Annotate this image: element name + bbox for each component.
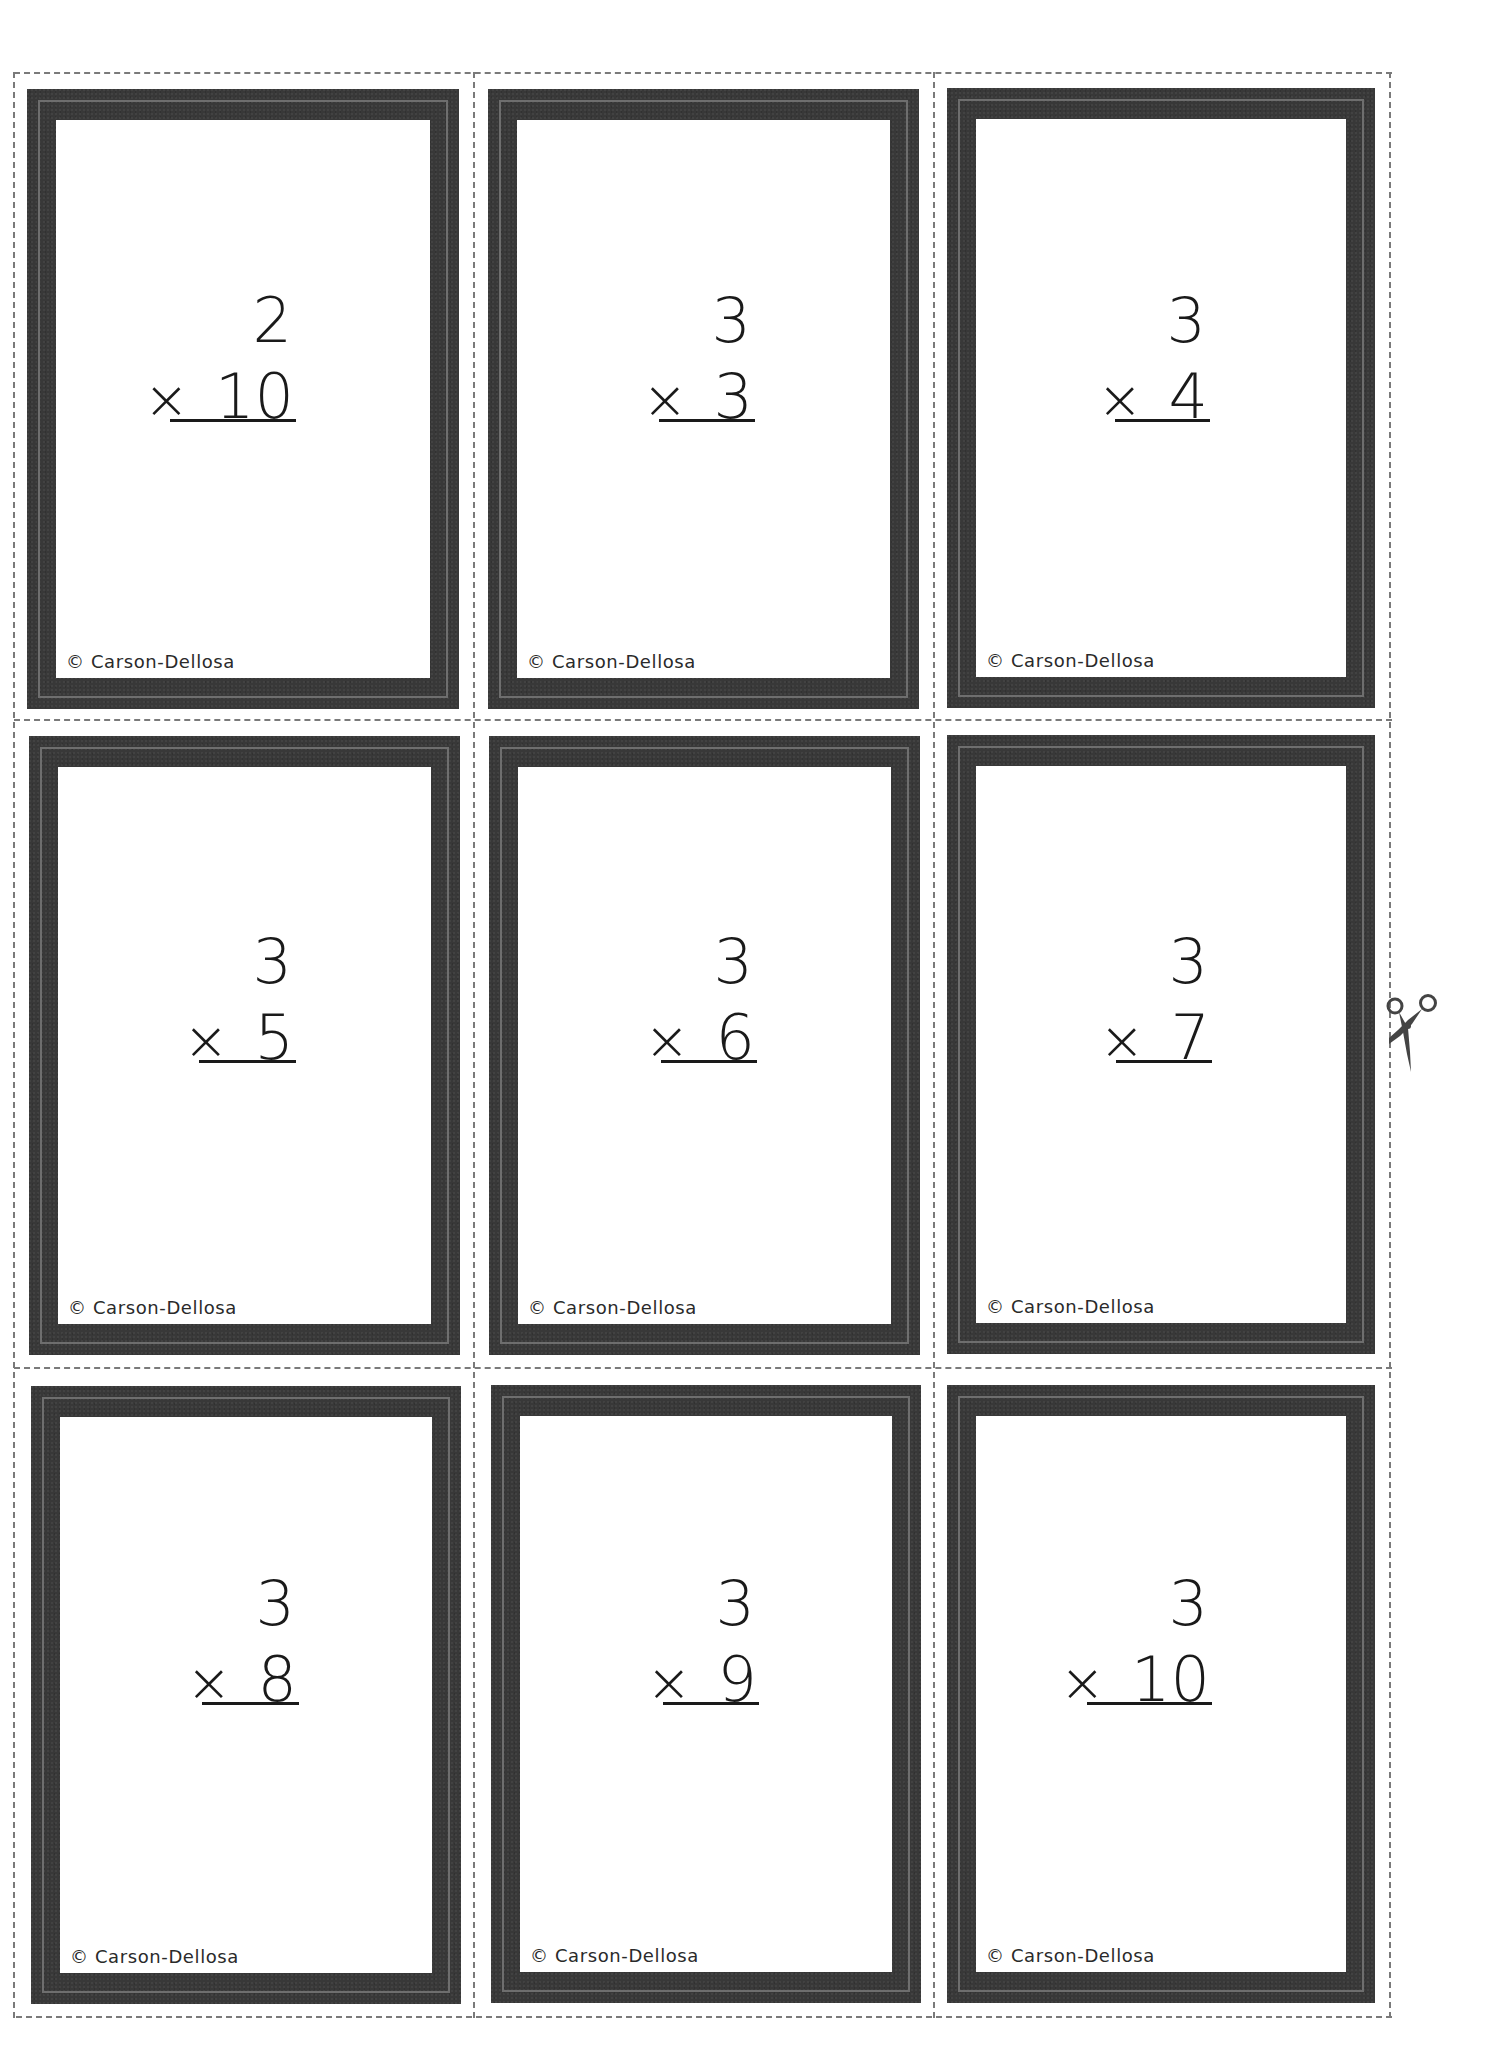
flash-card-sheet: 2 × 10 © Carson-Dellosa 3 × 3 © Carson-D… <box>0 0 1492 2072</box>
multiplicand: 3 <box>253 931 294 993</box>
flash-card: 3 × 6 © Carson-Dellosa <box>489 736 920 1355</box>
cut-line-col-2 <box>933 72 935 2018</box>
flash-card: 3 × 9 © Carson-Dellosa <box>491 1385 921 2003</box>
copyright-label: © Carson-Dellosa <box>986 650 1155 671</box>
multiplication-problem: 3 × 7 <box>976 931 1210 1071</box>
flash-card: 3 × 4 © Carson-Dellosa <box>947 88 1375 708</box>
card-face: 3 × 6 © Carson-Dellosa <box>518 767 891 1324</box>
flash-card: 3 × 10 © Carson-Dellosa <box>947 1385 1375 2003</box>
multiplicand: 3 <box>716 1573 757 1635</box>
card-face: 3 × 8 © Carson-Dellosa <box>60 1417 432 1973</box>
copyright-label: © Carson-Dellosa <box>530 1945 699 1966</box>
flash-card: 2 × 10 © Carson-Dellosa <box>27 89 459 709</box>
multiplicand: 3 <box>256 1573 297 1635</box>
answer-line <box>663 1702 759 1705</box>
answer-line <box>199 1060 296 1063</box>
multiplicand: 3 <box>1167 290 1208 352</box>
cut-line-left <box>13 72 15 2018</box>
cut-line-top <box>14 72 1392 74</box>
multiplication-problem: 3 × 4 <box>976 290 1208 430</box>
card-face: 2 × 10 © Carson-Dellosa <box>56 120 430 678</box>
flash-card: 3 × 8 © Carson-Dellosa <box>31 1386 461 2004</box>
card-face: 3 × 10 © Carson-Dellosa <box>976 1416 1346 1972</box>
copyright-label: © Carson-Dellosa <box>986 1296 1155 1317</box>
multiplicand: 3 <box>714 931 755 993</box>
card-face: 3 × 4 © Carson-Dellosa <box>976 119 1346 677</box>
multiplication-problem: 3 × 5 <box>58 931 294 1071</box>
copyright-label: © Carson-Dellosa <box>68 1297 237 1318</box>
answer-line <box>170 419 296 422</box>
multiplication-problem: 3 × 10 <box>976 1573 1210 1713</box>
scissors-icon <box>1380 992 1444 1078</box>
answer-line <box>661 1060 757 1063</box>
multiplication-problem: 3 × 8 <box>60 1573 297 1713</box>
multiplicand: 3 <box>1169 931 1210 993</box>
copyright-label: © Carson-Dellosa <box>70 1946 239 1967</box>
cut-line-bottom <box>16 2016 1392 2018</box>
card-face: 3 × 7 © Carson-Dellosa <box>976 766 1346 1323</box>
flash-card: 3 × 5 © Carson-Dellosa <box>29 736 460 1355</box>
multiplication-problem: 2 × 10 <box>56 290 294 430</box>
answer-line <box>1115 419 1210 422</box>
copyright-label: © Carson-Dellosa <box>528 1297 697 1318</box>
multiplicand: 3 <box>712 290 753 352</box>
copyright-label: © Carson-Dellosa <box>527 651 696 672</box>
cut-line-row-2 <box>14 1367 1392 1369</box>
cut-line-row-1 <box>14 719 1392 721</box>
flash-card: 3 × 7 © Carson-Dellosa <box>947 735 1375 1354</box>
answer-line <box>1116 1060 1212 1063</box>
multiplicand: 3 <box>1169 1573 1210 1635</box>
multiplication-problem: 3 × 9 <box>520 1573 757 1713</box>
card-face: 3 × 3 © Carson-Dellosa <box>517 120 890 678</box>
copyright-label: © Carson-Dellosa <box>986 1945 1155 1966</box>
card-face: 3 × 5 © Carson-Dellosa <box>58 767 431 1324</box>
answer-line <box>1087 1702 1212 1705</box>
multiplicand: 2 <box>253 290 294 352</box>
answer-line <box>659 419 755 422</box>
copyright-label: © Carson-Dellosa <box>66 651 235 672</box>
cut-line-col-1 <box>473 72 475 2018</box>
answer-line <box>202 1702 299 1705</box>
multiplication-problem: 3 × 6 <box>518 931 755 1071</box>
flash-card: 3 × 3 © Carson-Dellosa <box>488 89 919 709</box>
multiplication-problem: 3 × 3 <box>517 290 753 430</box>
card-face: 3 × 9 © Carson-Dellosa <box>520 1416 892 1972</box>
